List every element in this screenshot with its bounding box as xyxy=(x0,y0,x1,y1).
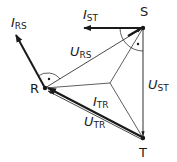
node-r-dot xyxy=(43,86,47,90)
node-t-dot xyxy=(141,136,145,140)
label-itr: ITR xyxy=(93,94,109,110)
label-ust: UST xyxy=(148,77,169,93)
current-arrow-near-s xyxy=(128,29,140,36)
right-angle-dot-s xyxy=(137,43,139,45)
voltage-phasor-urs xyxy=(45,29,141,88)
phasor-diagram: S R T IRS IST ITR URS UST UTR xyxy=(0,0,177,162)
label-irs: IRS xyxy=(11,15,27,31)
node-label-s: S xyxy=(140,4,148,19)
node-label-t: T xyxy=(138,145,147,160)
node-label-r: R xyxy=(30,81,39,96)
node-s-dot xyxy=(141,26,145,30)
label-ist: IST xyxy=(83,7,99,23)
right-angle-dot-r xyxy=(48,78,50,80)
label-urs: URS xyxy=(70,44,92,60)
